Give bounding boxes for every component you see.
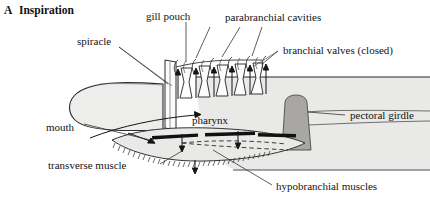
label-transverse-muscle: transverse muscle bbox=[48, 159, 127, 171]
panel-letter: A bbox=[4, 4, 13, 16]
label-branchial-valves: branchial valves (closed) bbox=[283, 44, 393, 57]
label-parabranchial-cavities: parabranchial cavities bbox=[225, 11, 321, 23]
label-pharynx: pharynx bbox=[192, 114, 229, 126]
inspiration-anatomical-diagram: A Inspiration bbox=[0, 0, 430, 209]
label-mouth: mouth bbox=[46, 121, 75, 133]
label-gill-pouch: gill pouch bbox=[146, 10, 191, 22]
label-spiracle: spiracle bbox=[77, 35, 111, 47]
panel-title: Inspiration bbox=[19, 4, 75, 17]
figure-page: A Inspiration bbox=[0, 0, 430, 209]
label-pectoral-girdle: pectoral girdle bbox=[350, 109, 414, 121]
head-snout bbox=[70, 83, 164, 131]
label-hypobranchial-muscles: hypobranchial muscles bbox=[276, 180, 377, 192]
